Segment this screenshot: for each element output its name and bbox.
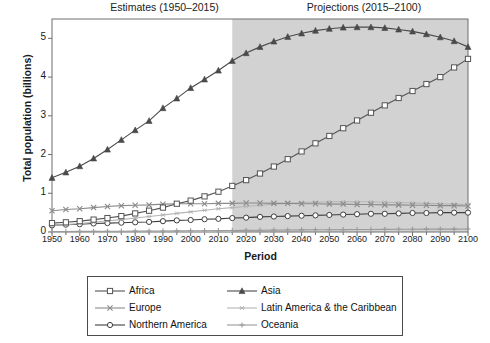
legend-item-africa[interactable]: Africa <box>94 282 226 299</box>
legend-label: Africa <box>129 285 155 296</box>
legend-label: Oceania <box>261 319 298 330</box>
y-tick-0: 0 <box>32 225 46 236</box>
x-tick-2100: 2100 <box>451 234 485 244</box>
y-tick-4: 4 <box>32 70 46 81</box>
legend-item-oceania[interactable]: Oceania <box>226 316 398 333</box>
legend-marker-square-icon <box>94 285 126 297</box>
legend-item-asia[interactable]: Asia <box>226 282 398 299</box>
legend-item-northern-america[interactable]: Northern America <box>94 316 226 333</box>
y-tick-2: 2 <box>32 148 46 159</box>
y-tick-5: 5 <box>32 31 46 42</box>
legend-marker-cross-icon <box>94 302 126 314</box>
legend-marker-asterisk-icon <box>226 302 258 314</box>
legend-marker-triangle-icon <box>226 285 258 297</box>
legend-item-europe[interactable]: Europe <box>94 299 226 316</box>
legend-label: Latin America & the Caribbean <box>261 302 397 313</box>
y-tick-3: 3 <box>32 109 46 120</box>
legend-label: Europe <box>129 302 161 313</box>
projection-shaded-region <box>232 19 468 232</box>
legend-label: Asia <box>261 285 280 296</box>
legend-label: Northern America <box>129 319 207 330</box>
population-chart-figure: Estimates (1950–2015) Projections (2015–… <box>0 0 490 343</box>
legend-marker-circle-icon <box>94 319 126 331</box>
y-tick-1: 1 <box>32 186 46 197</box>
legend-marker-plus-icon <box>226 319 258 331</box>
chart-legend: AfricaAsiaEuropeLatin America & the Cari… <box>87 276 403 336</box>
legend-item-latin-america-the-caribbean[interactable]: Latin America & the Caribbean <box>226 299 398 316</box>
